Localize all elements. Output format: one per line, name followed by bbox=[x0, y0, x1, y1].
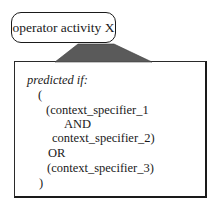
operator-activity-label: operator activity X bbox=[13, 20, 115, 36]
operator-activity-node: operator activity X bbox=[11, 12, 116, 43]
connector-shape bbox=[55, 44, 152, 62]
